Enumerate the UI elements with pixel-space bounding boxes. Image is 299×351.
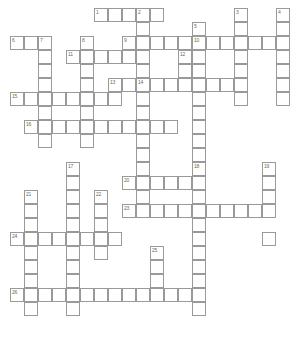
crossword-cell[interactable] [192,120,206,134]
crossword-cell[interactable] [220,36,234,50]
crossword-cell[interactable] [94,288,108,302]
crossword-cell[interactable] [122,50,136,64]
crossword-cell[interactable] [136,204,150,218]
crossword-cell[interactable] [94,246,108,260]
crossword-cell[interactable] [136,22,150,36]
crossword-cell[interactable] [80,64,94,78]
crossword-cell[interactable] [150,176,164,190]
crossword-cell[interactable] [122,8,136,22]
crossword-cell[interactable] [38,64,52,78]
crossword-cell[interactable] [262,36,276,50]
crossword-cell[interactable] [136,162,150,176]
crossword-cell[interactable] [80,106,94,120]
crossword-cell[interactable] [206,204,220,218]
crossword-cell[interactable] [52,92,66,106]
crossword-cell-numbered[interactable]: 21 [24,190,38,204]
crossword-cell[interactable] [122,78,136,92]
crossword-cell[interactable] [80,50,94,64]
crossword-cell[interactable] [122,120,136,134]
crossword-cell-numbered[interactable]: 18 [192,162,206,176]
crossword-cell-numbered[interactable]: 9 [122,36,136,50]
crossword-cell[interactable] [276,50,290,64]
crossword-cell[interactable] [66,218,80,232]
crossword-cell[interactable] [52,232,66,246]
crossword-cell[interactable] [108,232,122,246]
crossword-cell[interactable] [24,274,38,288]
crossword-cell-numbered[interactable]: 19 [262,162,276,176]
crossword-cell-numbered[interactable]: 4 [276,8,290,22]
crossword-cell[interactable] [262,190,276,204]
crossword-cell[interactable] [192,302,206,316]
crossword-cell-numbered[interactable]: 25 [150,246,164,260]
crossword-cell[interactable] [192,106,206,120]
crossword-cell[interactable] [66,274,80,288]
crossword-cell[interactable] [66,190,80,204]
crossword-cell[interactable] [24,288,38,302]
crossword-cell[interactable] [164,120,178,134]
crossword-cell[interactable] [150,8,164,22]
crossword-cell[interactable] [234,22,248,36]
crossword-cell[interactable] [52,288,66,302]
crossword-cell[interactable] [150,288,164,302]
crossword-cell[interactable] [178,176,192,190]
crossword-cell[interactable] [234,92,248,106]
crossword-cell-numbered[interactable]: 15 [10,92,24,106]
crossword-cell-numbered[interactable]: 7 [38,36,52,50]
crossword-cell-numbered[interactable]: 23 [122,204,136,218]
crossword-cell[interactable] [136,176,150,190]
crossword-cell-numbered[interactable]: 14 [136,78,150,92]
crossword-cell-numbered[interactable]: 11 [66,50,80,64]
crossword-cell[interactable] [24,218,38,232]
crossword-cell-numbered[interactable]: 5 [192,22,206,36]
crossword-cell[interactable] [164,204,178,218]
crossword-cell[interactable] [192,204,206,218]
crossword-cell[interactable] [94,218,108,232]
crossword-cell-numbered[interactable]: 3 [234,8,248,22]
crossword-cell[interactable] [80,288,94,302]
crossword-cell[interactable] [234,64,248,78]
crossword-cell[interactable] [192,274,206,288]
crossword-cell[interactable] [234,50,248,64]
crossword-cell[interactable] [66,120,80,134]
crossword-cell[interactable] [192,260,206,274]
crossword-cell-numbered[interactable]: 26 [10,288,24,302]
crossword-cell[interactable] [192,64,206,78]
crossword-cell[interactable] [178,78,192,92]
crossword-cell[interactable] [178,288,192,302]
crossword-cell[interactable] [192,232,206,246]
crossword-cell[interactable] [192,148,206,162]
crossword-cell[interactable] [262,204,276,218]
crossword-cell[interactable] [248,204,262,218]
crossword-cell[interactable] [24,260,38,274]
crossword-cell-numbered[interactable]: 20 [122,176,136,190]
crossword-cell[interactable] [136,190,150,204]
crossword-cell[interactable] [80,232,94,246]
crossword-cell[interactable] [248,36,262,50]
crossword-cell[interactable] [136,134,150,148]
crossword-cell[interactable] [136,106,150,120]
crossword-cell[interactable] [276,36,290,50]
crossword-cell[interactable] [234,204,248,218]
crossword-cell[interactable] [192,50,206,64]
crossword-cell[interactable] [136,36,150,50]
crossword-cell[interactable] [38,78,52,92]
crossword-cell[interactable] [206,78,220,92]
crossword-cell[interactable] [24,204,38,218]
crossword-cell[interactable] [164,288,178,302]
crossword-cell[interactable] [164,176,178,190]
crossword-cell-numbered[interactable]: 17 [66,162,80,176]
crossword-cell[interactable] [80,120,94,134]
crossword-cell[interactable] [66,204,80,218]
crossword-cell[interactable] [276,64,290,78]
crossword-cell[interactable] [192,246,206,260]
crossword-cell[interactable] [192,176,206,190]
crossword-cell[interactable] [94,92,108,106]
crossword-cell[interactable] [24,36,38,50]
crossword-cell[interactable] [220,78,234,92]
crossword-cell[interactable] [66,260,80,274]
crossword-cell[interactable] [24,232,38,246]
crossword-cell[interactable] [24,302,38,316]
crossword-cell[interactable] [150,78,164,92]
crossword-cell[interactable] [192,218,206,232]
crossword-cell[interactable] [108,50,122,64]
